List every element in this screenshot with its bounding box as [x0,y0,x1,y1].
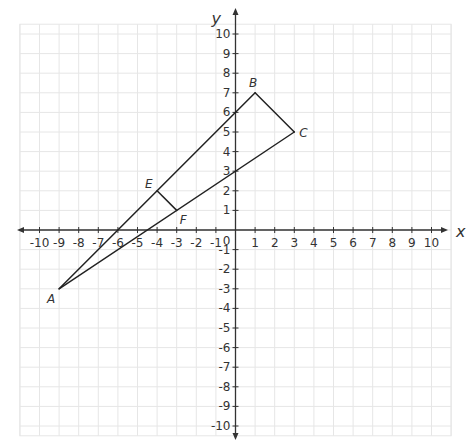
point-label-A: A [46,292,55,306]
x-tick-label: ‑3 [171,236,183,250]
point-label-E: E [145,177,153,191]
x-tick-label: ‑8 [73,236,85,250]
x-tick-label: 2 [271,236,279,250]
x-tick-label: 5 [330,236,338,250]
x-axis-label: x [455,222,466,241]
x-tick-label: 7 [369,236,377,250]
y-tick-label: ‑2 [219,262,231,276]
arrow-left-icon [17,227,24,233]
y-tick-label: ‑4 [219,301,231,315]
point-label-B: B [249,76,257,90]
y-tick-label: ‑3 [219,282,231,296]
segment-EF [157,191,177,211]
x-tick-label: ‑10 [30,236,50,250]
coordinate-plane: xy ‑10‑9‑8‑7‑6‑5‑4‑3‑2‑11234567891010987… [0,0,475,448]
y-tick-label: ‑7 [219,360,231,374]
x-tick-label: 6 [349,236,357,250]
x-tick-label: ‑4 [151,236,163,250]
y-tick-label: ‑8 [219,380,231,394]
y-tick-label: 4 [223,145,231,159]
x-tick-label: ‑7 [92,236,104,250]
arrow-down-icon [233,433,239,440]
y-tick-label: ‑10 [211,419,231,433]
y-tick-label: ‑5 [219,321,231,335]
y-tick-label: 5 [223,125,231,139]
x-tick-label: ‑6 [112,236,124,250]
arrow-right-icon [441,227,448,233]
x-tick-label: 4 [310,236,318,250]
y-tick-label: ‑9 [219,399,231,413]
x-tick-label: ‑5 [132,236,144,250]
x-tick-label: ‑9 [53,236,65,250]
x-tick-label: 8 [388,236,396,250]
x-tick-label: 9 [408,236,416,250]
origin-label: 0 [223,234,231,248]
y-tick-label: 2 [223,184,231,198]
y-tick-label: 6 [223,105,231,119]
y-tick-label: 9 [223,47,231,61]
x-tick-label: ‑2 [190,236,202,250]
y-tick-label: 8 [223,66,231,80]
y-axis-label: y [211,9,222,28]
y-tick-label: 10 [215,27,230,41]
x-tick-label: 1 [251,236,259,250]
x-tick-label: 10 [424,236,439,250]
point-label-F: F [180,213,188,227]
y-tick-label: 1 [223,203,231,217]
x-tick-label: 3 [290,236,298,250]
point-label-C: C [299,126,308,140]
y-tick-label: ‑6 [219,341,231,355]
arrow-up-icon [233,8,239,15]
y-tick-label: 7 [223,86,231,100]
